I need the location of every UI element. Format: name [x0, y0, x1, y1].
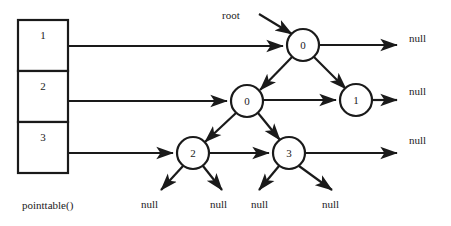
null-label-right-3: null	[409, 134, 426, 146]
pointer-table: 1 2 3	[18, 20, 68, 173]
diagram-canvas: 1 2 3	[0, 0, 451, 226]
node-label-level3-left: 2	[190, 147, 196, 159]
tree-node-root[interactable]: 0	[287, 29, 319, 61]
null-arrow-bottom-3	[259, 166, 279, 190]
edge-n1-n3	[205, 113, 236, 142]
edge-n0-n2	[314, 57, 346, 89]
null-label-right-2: null	[409, 85, 426, 97]
node-label-level3-right: 3	[286, 147, 292, 159]
pointer-table-caption: pointtable()	[22, 199, 74, 212]
null-label-bottom-2: null	[210, 198, 227, 210]
null-arrow-bottom-2	[203, 166, 222, 190]
null-label-right-1: null	[409, 32, 426, 44]
edge-n0-n1	[260, 57, 292, 90]
tree-node-level3-right[interactable]: 3	[273, 137, 305, 169]
root-label: root	[222, 9, 240, 21]
null-label-bottom-3: null	[251, 198, 268, 210]
null-label-bottom-4: null	[322, 198, 339, 210]
tree-node-level3-left[interactable]: 2	[177, 137, 209, 169]
tree-node-level2-right[interactable]: 1	[340, 84, 372, 116]
tree-node-level2-left[interactable]: 0	[231, 85, 263, 117]
pointer-table-cell-1-label: 1	[40, 29, 46, 41]
node-label-level2-right: 1	[353, 94, 359, 106]
null-arrow-bottom-4	[299, 166, 332, 190]
tree-diagram-svg: 1 2 3	[0, 0, 451, 226]
edge-n1-n4	[258, 113, 280, 140]
null-arrows-bottom	[161, 166, 332, 190]
pointer-table-cell-3-label: 3	[40, 131, 46, 143]
node-label-level2-left: 0	[244, 95, 250, 107]
pointer-table-cell-2-label: 2	[40, 80, 46, 92]
tree-edges	[205, 57, 346, 153]
root-arrow	[259, 14, 292, 34]
node-label-root: 0	[300, 39, 306, 51]
null-label-bottom-1: null	[141, 198, 158, 210]
null-arrow-bottom-1	[161, 166, 183, 190]
